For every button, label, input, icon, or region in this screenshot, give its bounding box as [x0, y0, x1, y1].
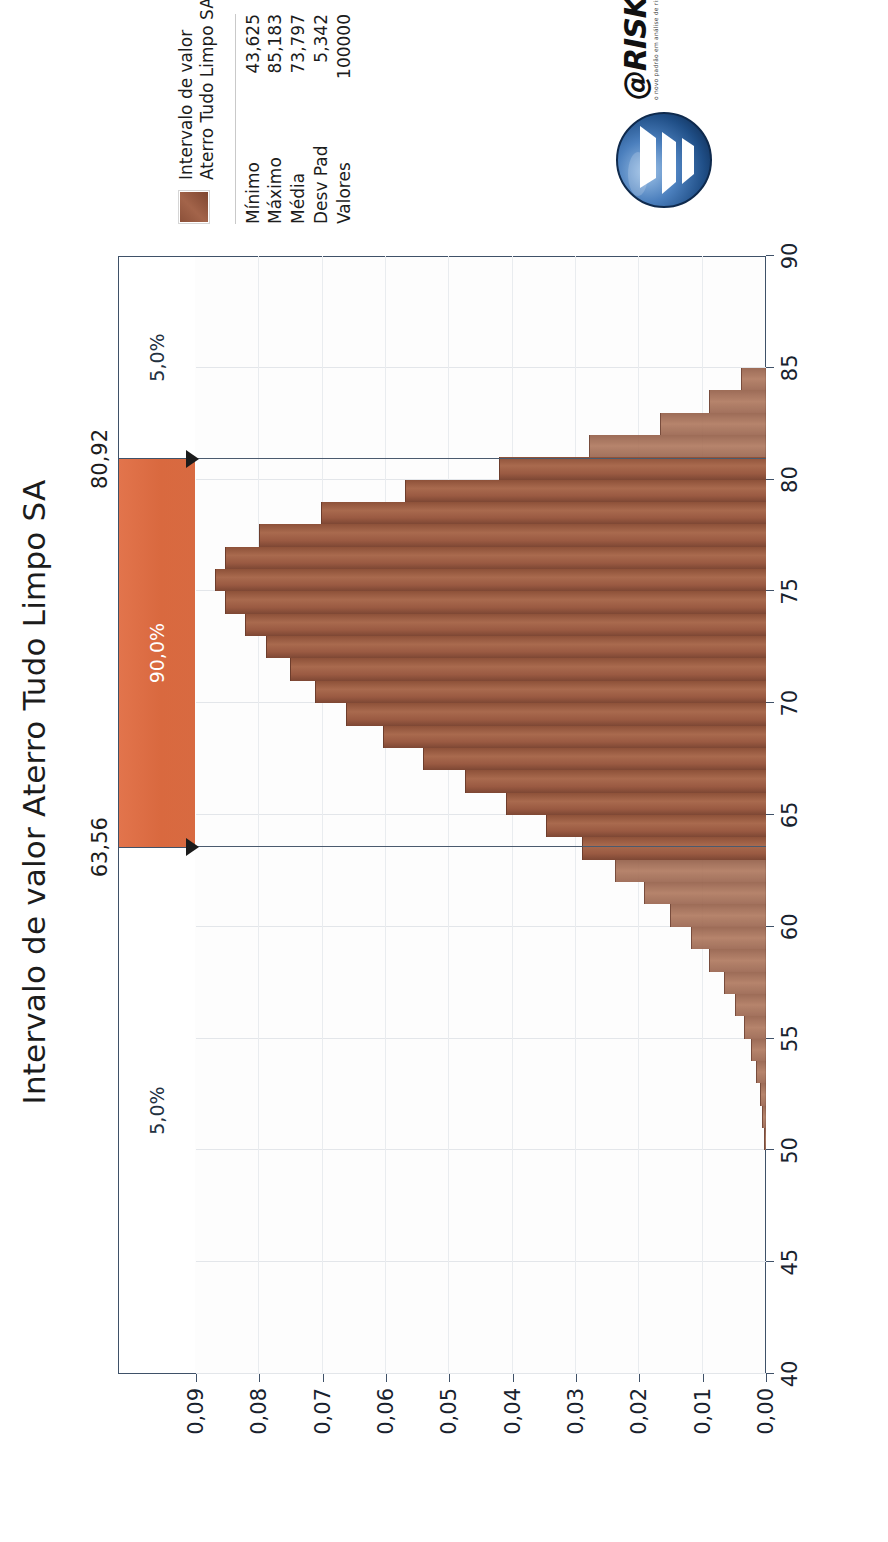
x-axis-tick: [766, 1038, 774, 1039]
delimiter-value-label: 63,56: [88, 817, 112, 877]
histogram-bar: [215, 569, 766, 591]
statistics-label: Valores: [333, 162, 356, 224]
x-axis-tick-label: 90: [778, 243, 802, 270]
statistics-label: Mínimo: [242, 162, 265, 224]
delimiter-band-label: 5,0%: [146, 333, 168, 381]
delimiter-line[interactable]: [195, 846, 766, 847]
y-axis-tick-label: 0,04: [501, 1388, 525, 1435]
risk-histogram-figure: Intervalo de valor Aterro Tudo Limpo SA …: [0, 0, 888, 1542]
x-axis-tick-label: 55: [778, 1025, 802, 1052]
statistics-row: Média73,797: [287, 14, 310, 224]
histogram-bar: [691, 927, 766, 949]
delimiter-band[interactable]: 90,0%: [119, 459, 195, 847]
histogram-bar: [225, 591, 767, 613]
histogram-bar: [346, 703, 766, 725]
x-axis-tick-label: 40: [778, 1361, 802, 1388]
histogram-bar: [506, 793, 766, 815]
legend: Intervalo de valor Aterro Tudo Limpo SA …: [176, 14, 356, 224]
histogram-bar: [582, 837, 766, 859]
histogram-bar: [225, 547, 767, 569]
delimiter-band-strip: 5,0%90,0%5,0%: [119, 256, 195, 1374]
x-axis-tick-label: 75: [778, 578, 802, 605]
histogram-bar: [735, 994, 766, 1016]
y-axis-tick: [766, 1374, 767, 1382]
histogram-bar: [321, 502, 766, 524]
y-axis-tick-label: 0,01: [691, 1388, 715, 1435]
statistics-value: 43,625: [242, 14, 265, 73]
statistics-label: Máximo: [264, 157, 287, 224]
statistics-value: 100000: [333, 14, 356, 79]
at-risk-logo: @RISK o novo padrão em análise de risco: [612, 32, 722, 212]
x-axis-tick-label: 70: [778, 690, 802, 717]
y-axis-tick: [703, 1374, 704, 1382]
x-axis-tick-label: 50: [778, 1137, 802, 1164]
legend-header: Intervalo de valor Aterro Tudo Limpo SA: [176, 14, 219, 224]
histogram-bar: [744, 1016, 766, 1038]
statistics-label: Desv Pad: [310, 145, 333, 224]
histogram-bar: [756, 1061, 766, 1083]
y-axis-tick-label: 0,05: [437, 1388, 461, 1435]
histogram-bar: [259, 524, 766, 546]
histogram-bar: [383, 726, 766, 748]
histogram-bars: [196, 256, 766, 1374]
legend-title: Intervalo de valor Aterro Tudo Limpo SA: [176, 0, 219, 180]
histogram-bar: [405, 480, 766, 502]
statistics-value: 73,797: [287, 14, 310, 73]
x-axis-tick: [766, 367, 774, 368]
delimiter-handle[interactable]: [186, 838, 199, 856]
x-axis-tick: [766, 590, 774, 591]
x-axis-tick: [766, 255, 774, 256]
delimiter-band[interactable]: 5,0%: [119, 847, 195, 1374]
y-axis-tick: [196, 1374, 197, 1382]
histogram-bar: [741, 368, 766, 390]
legend-title-line1: Intervalo de valor: [176, 0, 197, 180]
y-axis-tick: [639, 1374, 640, 1382]
y-axis-tick-label: 0,06: [374, 1388, 398, 1435]
statistics-table: Mínimo43,625Máximo85,183Média73,797Desv …: [235, 14, 357, 224]
y-axis-tick-label: 0,07: [311, 1388, 335, 1435]
delimiter-band-label: 90,0%: [146, 623, 168, 683]
y-axis-tick: [449, 1374, 450, 1382]
x-axis-tick: [766, 702, 774, 703]
delimiter-handle[interactable]: [186, 450, 199, 468]
histogram-bar: [315, 681, 766, 703]
statistics-label: Média: [287, 173, 310, 224]
delimiter-band[interactable]: 5,0%: [119, 256, 195, 459]
histogram-bar: [709, 390, 766, 412]
risk-tagline: o novo padrão em análise de risco: [652, 0, 659, 100]
x-axis-tick: [766, 1261, 774, 1262]
histogram-bar: [266, 636, 766, 658]
x-axis-tick-label: 85: [778, 354, 802, 381]
x-axis-tick: [766, 926, 774, 927]
histogram-bar: [499, 457, 766, 479]
y-axis-tick: [386, 1374, 387, 1382]
x-axis-tick-label: 60: [778, 913, 802, 940]
delimiter-line[interactable]: [195, 458, 766, 459]
histogram-bar: [465, 770, 766, 792]
statistics-row: Máximo85,183: [264, 14, 287, 224]
statistics-row: Valores100000: [333, 14, 356, 224]
x-axis-tick: [766, 479, 774, 480]
y-axis-tick-label: 0,03: [564, 1388, 588, 1435]
y-axis-tick-label: 0,08: [247, 1388, 271, 1435]
legend-title-line2: Aterro Tudo Limpo SA: [197, 0, 218, 180]
x-axis-tick-label: 65: [778, 802, 802, 829]
histogram-bar: [615, 860, 766, 882]
statistics-row: Mínimo43,625: [242, 14, 265, 224]
histogram-bar: [660, 413, 766, 435]
x-axis: 4045505560657075808590: [766, 256, 816, 1374]
x-axis-tick: [766, 814, 774, 815]
delimiter-value-label: 80,92: [88, 429, 112, 489]
x-axis-tick: [766, 1149, 774, 1150]
risk-globe-icon: [612, 108, 716, 212]
x-axis-tick-label: 45: [778, 1249, 802, 1276]
statistics-value: 5,342: [310, 14, 333, 63]
page-title: Intervalo de valor Aterro Tudo Limpo SA: [16, 342, 52, 1242]
y-axis-tick-label: 0,00: [754, 1388, 778, 1435]
y-axis-tick: [576, 1374, 577, 1382]
histogram-bar: [245, 614, 766, 636]
y-axis-tick: [323, 1374, 324, 1382]
x-axis-tick-label: 80: [778, 466, 802, 493]
histogram-bar: [724, 972, 766, 994]
x-axis-tick: [766, 1373, 774, 1374]
